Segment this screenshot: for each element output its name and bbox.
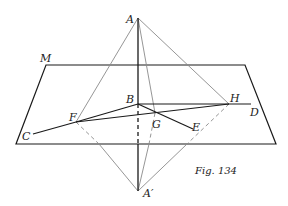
segment-be bbox=[138, 104, 193, 129]
geometry-figure: A M B H D F G E C A′ Fig. 134 bbox=[0, 0, 288, 206]
label-c: C bbox=[22, 130, 31, 143]
segment-fa-prime-hidden bbox=[76, 122, 99, 144]
label-d: D bbox=[249, 106, 259, 119]
segment-ga-prime bbox=[138, 144, 149, 191]
label-e: E bbox=[191, 121, 200, 134]
label-b: B bbox=[125, 93, 134, 106]
segment-fa-prime bbox=[99, 144, 138, 191]
figure-caption: Fig. 134 bbox=[194, 165, 237, 176]
label-a: A bbox=[125, 13, 134, 26]
label-g: G bbox=[152, 118, 161, 131]
segment-ah bbox=[138, 18, 229, 104]
label-m: M bbox=[39, 52, 52, 65]
segment-ha-prime bbox=[138, 144, 187, 191]
label-f: F bbox=[68, 111, 77, 124]
label-h: H bbox=[229, 92, 240, 105]
label-a-prime: A′ bbox=[142, 187, 154, 200]
